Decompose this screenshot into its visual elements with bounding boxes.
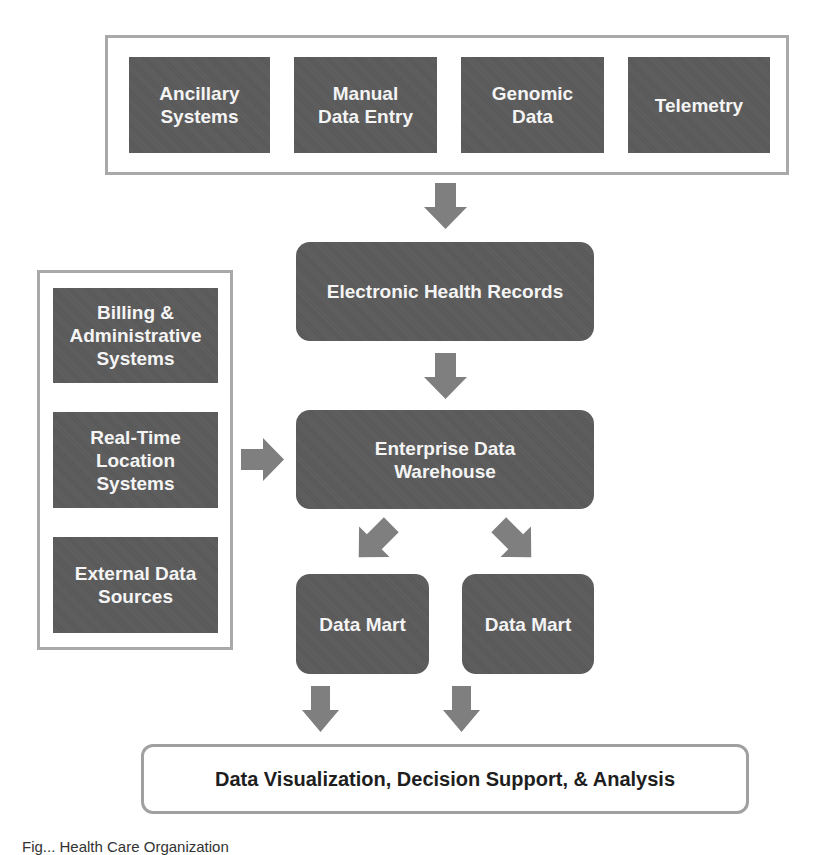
arrow-down-icon: [302, 686, 339, 733]
data-mart-right: Data Mart: [462, 574, 594, 674]
figure-caption: Fig... Health Care Organization: [22, 838, 229, 855]
enterprise-data-warehouse: Enterprise Data Warehouse: [296, 410, 594, 509]
source-genomic-data: Genomic Data: [461, 57, 604, 153]
source-real-time-location: Real-Time Location Systems: [53, 412, 218, 508]
arrow-down-icon: [424, 353, 467, 400]
source-telemetry: Telemetry: [628, 57, 770, 153]
arrow-right-icon: [241, 438, 285, 482]
data-mart-left: Data Mart: [296, 574, 429, 674]
arrow-down-right-icon: [490, 518, 540, 564]
arrow-down-icon: [424, 183, 467, 230]
arrow-down-icon: [443, 686, 480, 733]
electronic-health-records: Electronic Health Records: [296, 242, 594, 341]
source-ancillary-systems: Ancillary Systems: [129, 57, 270, 153]
source-manual-data-entry: Manual Data Entry: [294, 57, 437, 153]
source-external-data: External Data Sources: [53, 537, 218, 633]
arrow-down-left-icon: [350, 518, 400, 564]
source-billing-administrative: Billing & Administrative Systems: [53, 288, 218, 383]
data-visualization-decision-support-analysis: Data Visualization, Decision Support, & …: [141, 744, 749, 814]
